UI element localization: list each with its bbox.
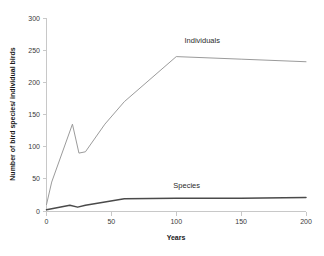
series-label-species: Species [173,181,200,190]
line-chart: 050100150200250300 050100150200 Individu… [0,0,324,256]
y-tick-label-group: 050100150200250300 [28,15,40,215]
y-tick-group [43,18,47,211]
series-label-individuals: Individuals [184,36,220,45]
y-tick-label: 150 [28,111,40,118]
y-tick-label: 250 [28,47,40,54]
x-tick-label: 50 [107,218,115,225]
x-axis: 050100150200 [45,212,312,226]
x-tick-label: 100 [170,218,182,225]
y-tick-label: 300 [28,15,40,22]
y-tick-label: 50 [32,175,40,182]
x-tick-group [47,212,307,216]
y-tick-label: 100 [28,143,40,150]
x-axis-title: Years [167,234,186,241]
series-line-species [47,197,307,209]
chart-container: 050100150200250300 050100150200 Individu… [0,0,324,256]
y-tick-label: 0 [36,208,40,215]
y-tick-label: 200 [28,79,40,86]
series-annotation-group: IndividualsSpecies [173,36,220,190]
x-tick-label-group: 050100150200 [45,218,312,225]
x-tick-label: 0 [45,218,49,225]
y-axis-title: Number of bird species/ individual birds [9,47,17,181]
y-axis: 050100150200250300 [28,15,46,215]
x-tick-label: 150 [235,218,247,225]
x-tick-label: 200 [300,218,312,225]
